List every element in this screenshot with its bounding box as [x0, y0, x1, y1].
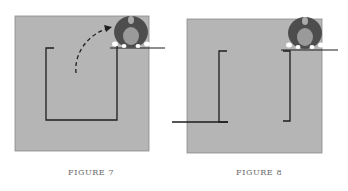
figure-8-caption: FIGURE 8	[236, 168, 282, 177]
diagram-canvas	[0, 0, 348, 191]
figure-7-diagram	[15, 16, 165, 151]
figure-8-diagram	[172, 17, 338, 153]
figure-7-caption: FIGURE 7	[68, 168, 114, 177]
